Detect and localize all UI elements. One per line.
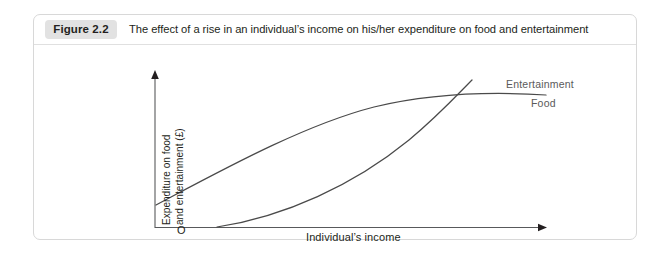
y-axis-label-line-2: and entertainment (£) bbox=[173, 75, 186, 225]
figure-page: Figure 2.2 The effect of a rise in an in… bbox=[0, 0, 671, 253]
y-axis-label: Expenditure on food and entertainment (£… bbox=[160, 75, 186, 225]
series-label-entertainment: Entertainment bbox=[506, 78, 574, 90]
figure-card: Figure 2.2 The effect of a rise in an in… bbox=[33, 14, 637, 240]
figure-caption: The effect of a rise in an individual’s … bbox=[129, 21, 628, 38]
series-label-food: Food bbox=[531, 97, 556, 109]
y-axis-label-line-1: Expenditure on food bbox=[160, 75, 173, 225]
chart-svg bbox=[34, 45, 638, 241]
figure-header: Figure 2.2 The effect of a rise in an in… bbox=[34, 15, 636, 45]
figure-number-badge: Figure 2.2 bbox=[45, 20, 117, 39]
x-axis-label: Individual’s income bbox=[306, 231, 401, 243]
chart-plot-area: O Individual’s income Expenditure on foo… bbox=[34, 45, 636, 239]
origin-label: O bbox=[177, 224, 186, 236]
curve-food bbox=[156, 94, 546, 206]
